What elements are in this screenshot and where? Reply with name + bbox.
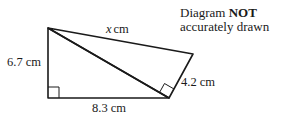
note-prefix: Diagram xyxy=(180,5,229,20)
label-bottom-side: 8.3 cm xyxy=(92,101,126,115)
not-to-scale-note: Diagram NOT accurately drawn xyxy=(180,6,269,34)
label-left-side: 6.7 cm xyxy=(7,55,41,69)
note-line-1: Diagram NOT xyxy=(180,6,269,20)
note-bold: NOT xyxy=(229,5,257,20)
label-short-side: 4.2 cm xyxy=(181,75,215,89)
right-angle-marker-b xyxy=(48,87,59,98)
note-line-2: accurately drawn xyxy=(180,20,269,34)
label-x-side: xcm xyxy=(105,22,129,36)
right-angle-marker-c xyxy=(160,84,175,93)
